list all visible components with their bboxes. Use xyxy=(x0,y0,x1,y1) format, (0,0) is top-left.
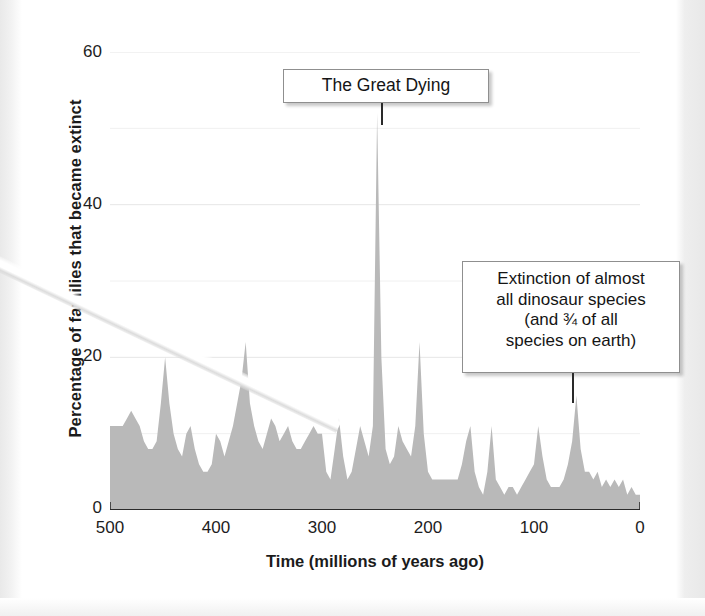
annotation-great-dying-text: The Great Dying xyxy=(322,75,450,96)
y-tick-label-20: 20 xyxy=(62,346,102,366)
scan-edge-bottom xyxy=(0,598,705,616)
x-tick-label-400: 400 xyxy=(186,518,246,538)
annotation-dinosaur-line-1: Extinction of almost xyxy=(469,269,673,290)
annotation-great-dying-leader xyxy=(381,103,383,125)
x-axis-title: Time (millions of years ago) xyxy=(110,552,640,571)
y-tick-label-0: 0 xyxy=(62,498,102,518)
annotation-dinosaur-line-2: all dinosaur species xyxy=(469,290,673,311)
y-tick-label-60: 60 xyxy=(62,42,102,62)
figure-root: Percentage of families that became extin… xyxy=(0,0,705,616)
x-tick-label-100: 100 xyxy=(504,518,564,538)
annotation-dinosaur-line-4: species on earth) xyxy=(469,331,673,352)
y-tick-label-40: 40 xyxy=(62,194,102,214)
x-tick-label-500: 500 xyxy=(80,518,140,538)
x-tick-label-200: 200 xyxy=(398,518,458,538)
annotation-dinosaur-line-3: (and ¾ of all xyxy=(469,310,673,331)
scan-edge-right xyxy=(676,0,705,616)
annotation-dinosaur-extinction: Extinction of almost all dinosaur specie… xyxy=(462,261,680,373)
annotation-great-dying: The Great Dying xyxy=(283,69,489,103)
x-tick-label-0: 0 xyxy=(610,518,670,538)
x-tick-label-300: 300 xyxy=(292,518,352,538)
y-axis-title: Percentage of families that became extin… xyxy=(66,118,85,438)
scan-edge-left xyxy=(0,0,22,616)
annotation-dinosaur-leader xyxy=(572,373,574,403)
